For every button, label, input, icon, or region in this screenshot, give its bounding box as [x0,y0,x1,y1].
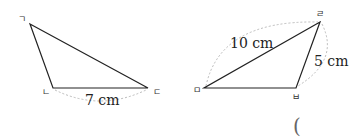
measure-left-base: 7 cm [85,92,119,108]
triangle-right [204,22,320,88]
vertex-label-bieup: ㅂ [292,92,300,102]
triangle-left [30,24,148,88]
vertex-label-mieum: ㅁ [193,85,201,95]
vertex-label-nieun: ㄴ [42,87,50,97]
measure-arc-hypotenuse [206,22,318,86]
measure-short-side: 5 cm [314,53,348,69]
measure-hypotenuse: 10 cm [230,35,273,51]
vertex-label-giyeok: ㄱ [18,14,26,24]
answer-parenthesis: ( [293,114,301,138]
vertex-label-digeut: ㄷ [153,87,161,97]
vertex-label-rieul: ㄹ [316,9,324,19]
